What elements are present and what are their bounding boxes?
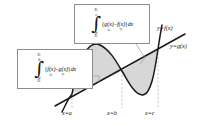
function-g-upper: g(x)上 xyxy=(104,21,113,27)
curve-label-g: y=g(x) xyxy=(170,42,187,49)
formula-lower: 右 b ∫ a 左 {f(x)上−g(x)下}dx xyxy=(18,50,92,88)
differential-lower: dx xyxy=(71,66,76,72)
mark-lower-ka-lower: 下 xyxy=(59,72,68,77)
integral-expression-upper: 右 c ∫ b 左 {g(x)上−f(x)下}dx xyxy=(91,9,133,39)
function-g-lower: g(x)下 xyxy=(59,66,68,72)
integral-expression-lower: 右 b ∫ a 左 {f(x)上−g(x)下}dx xyxy=(34,54,76,84)
integral-sign-upper: ∫ xyxy=(91,17,101,31)
axis-label-a: x=a xyxy=(62,110,72,116)
callout-box-upper: 右 c ∫ b 左 {g(x)上−f(x)下}dx xyxy=(74,4,150,44)
integral-sign-lower: ∫ xyxy=(34,62,44,76)
integral-limits-lower: 右 b ∫ a 左 xyxy=(34,54,45,84)
integral-limits-upper: 右 c ∫ b 左 xyxy=(91,9,102,39)
axis-label-b: x=b xyxy=(107,110,117,116)
callout-box-lower: 右 b ∫ a 左 {f(x)上−g(x)下}dx xyxy=(17,49,93,89)
formula-upper: 右 c ∫ b 左 {g(x)上−f(x)下}dx xyxy=(75,5,149,43)
function-f-text-lower: f(x) xyxy=(47,66,55,72)
axis-label-c: x=c xyxy=(145,110,154,116)
limit-lower-mark-left: 左 xyxy=(94,35,98,39)
function-f-upper: f(x)下 xyxy=(117,21,125,27)
shaded-region-b-c xyxy=(122,49,158,95)
integrand-upper: {g(x)上−f(x)下}dx xyxy=(102,21,134,27)
limit-lower-mark-left-lower: 左 xyxy=(37,80,41,84)
area-between-curves-figure: 右 c ∫ b 左 {g(x)上−f(x)下}dx 右 b ∫ a xyxy=(0,0,201,126)
mark-lower-ka: 下 xyxy=(117,27,125,32)
curve-label-f: y=f(x) xyxy=(157,24,173,31)
differential-upper: dx xyxy=(128,21,133,27)
function-g-text: g(x) xyxy=(104,21,113,27)
function-f-text: f(x) xyxy=(117,21,125,27)
integrand-lower: {f(x)上−g(x)下}dx xyxy=(45,66,77,72)
function-f-lower: f(x)上 xyxy=(47,66,55,72)
function-g-text-lower: g(x) xyxy=(59,66,68,72)
mark-upper-jou: 上 xyxy=(104,27,113,32)
mark-upper-jou-lower: 上 xyxy=(47,72,55,77)
